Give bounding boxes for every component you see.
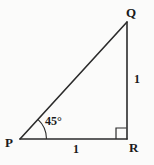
right-angle-icon (116, 128, 127, 139)
angle-label-p: 45° (45, 115, 62, 127)
side-label-pr: 1 (73, 143, 79, 155)
edge-pq (20, 22, 127, 139)
side-label-qr: 1 (134, 73, 140, 85)
vertex-label-r: R (129, 141, 138, 154)
vertex-label-q: Q (126, 6, 136, 19)
geometry-figure: P Q R 1 1 45° (0, 0, 154, 165)
vertex-label-p: P (5, 136, 13, 149)
